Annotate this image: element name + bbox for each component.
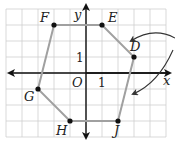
vertex-label-G: G bbox=[24, 89, 34, 104]
x-axis-label: x bbox=[163, 73, 171, 88]
vertex-E bbox=[99, 22, 104, 27]
origin-label: O bbox=[72, 75, 83, 90]
vertex-label-F: F bbox=[39, 10, 50, 25]
y-axis-label: y bbox=[73, 7, 82, 22]
vertex-label-E: E bbox=[107, 10, 118, 25]
coordinate-plane: FEDJHG y x O 1 1 bbox=[0, 0, 175, 144]
vertex-H bbox=[67, 118, 72, 123]
vertex-label-H: H bbox=[55, 123, 68, 138]
y-tick-label-1: 1 bbox=[76, 51, 84, 65]
x-tick-label-1: 1 bbox=[98, 76, 106, 90]
vertex-label-J: J bbox=[111, 123, 120, 138]
vertex-label-D: D bbox=[129, 39, 141, 54]
vertex-F bbox=[51, 22, 56, 27]
vertex-D bbox=[131, 54, 136, 59]
vertex-G bbox=[35, 86, 40, 91]
